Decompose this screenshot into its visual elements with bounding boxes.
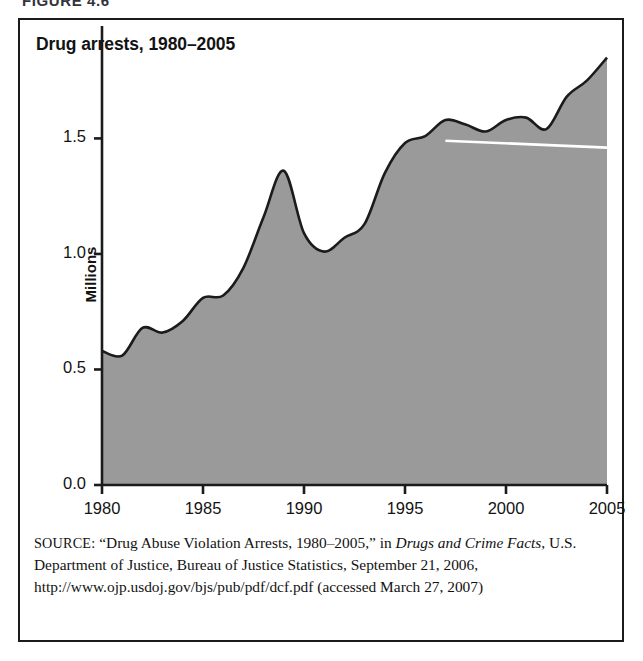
y-tick-label: 0.5	[34, 358, 86, 377]
source-text-4: (accessed March 27, 2007)	[317, 578, 483, 595]
y-tick-label: 1.5	[34, 127, 86, 146]
x-tick-label: 1985	[168, 499, 238, 518]
x-tick-label: 2000	[471, 499, 541, 518]
source-note: SOURCE: “Drug Abuse Violation Arrests, 1…	[34, 532, 612, 599]
source-keyword: SOURCE:	[34, 535, 95, 551]
x-tick-label: 1980	[67, 499, 137, 518]
source-italic-2: Crime Facts	[465, 534, 542, 551]
chart-plot-area: Millions 0.00.51.01.51980198519901995200…	[20, 20, 622, 540]
source-text-1: “Drug Abuse Violation Arrests, 1980–2005…	[99, 534, 395, 551]
y-tick-label: 1.0	[34, 243, 86, 262]
x-tick-label: 1995	[370, 499, 440, 518]
area-chart-svg	[20, 20, 622, 540]
figure-page: FIGURE 4.6 Drug arrests, 1980–2005 Milli…	[0, 0, 643, 661]
y-tick-label: 0.0	[34, 474, 86, 493]
figure-number-caption: FIGURE 4.6	[22, 0, 110, 12]
x-tick-label: 2005	[572, 499, 642, 518]
figure-frame: Drug arrests, 1980–2005 Millions 0.00.51…	[18, 18, 624, 642]
source-italic-1: Drugs and	[396, 534, 461, 551]
x-tick-label: 1990	[269, 499, 339, 518]
